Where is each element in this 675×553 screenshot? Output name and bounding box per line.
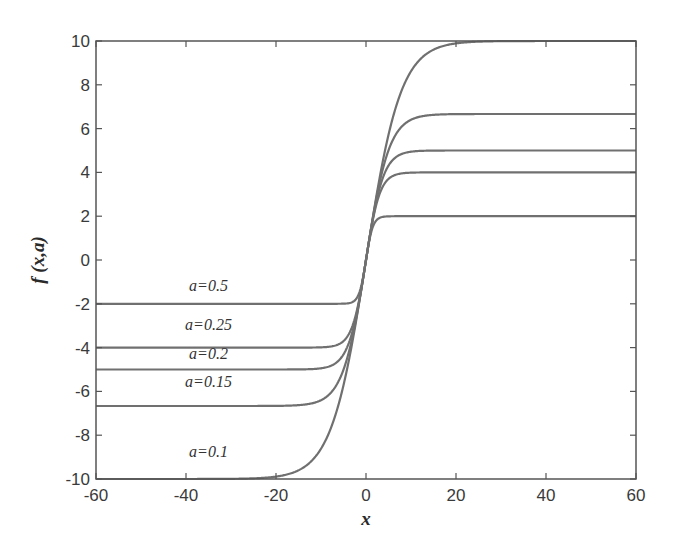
x-tick-label: 0: [361, 486, 370, 505]
curve-a-0-5: [96, 216, 636, 304]
x-tick-label: 20: [447, 486, 466, 505]
y-tick-label: 10: [71, 32, 90, 51]
y-tick-label: 6: [81, 120, 90, 139]
y-tick-label: -6: [75, 382, 90, 401]
curve-label: a=0.2: [189, 345, 228, 362]
y-tick-label: 4: [81, 163, 90, 182]
x-tick-label: -20: [264, 486, 289, 505]
y-tick-label: 2: [81, 207, 90, 226]
curve-label: a=0.5: [189, 277, 228, 294]
y-tick-label: -4: [75, 339, 90, 358]
y-tick-label: -8: [75, 426, 90, 445]
y-axis-title: f (x,a): [27, 236, 49, 283]
x-tick-label: 40: [537, 486, 556, 505]
y-tick-label: -10: [65, 470, 90, 489]
curve-label: a=0.1: [189, 443, 228, 460]
y-tick-label: -2: [75, 295, 90, 314]
x-axis-title: x: [360, 508, 371, 529]
x-tick-label: 60: [627, 486, 646, 505]
curve-label: a=0.25: [185, 316, 232, 333]
plot-curves: [96, 41, 636, 479]
curve-label: a=0.15: [185, 373, 232, 390]
y-axis-ticks: 1086420-2-4-6-8-10: [65, 32, 636, 489]
y-tick-label: 0: [81, 251, 90, 270]
chart: -60-40-200204060 1086420-2-4-6-8-10 a=0.…: [0, 0, 675, 553]
x-tick-label: -40: [174, 486, 199, 505]
y-tick-label: 8: [81, 76, 90, 95]
